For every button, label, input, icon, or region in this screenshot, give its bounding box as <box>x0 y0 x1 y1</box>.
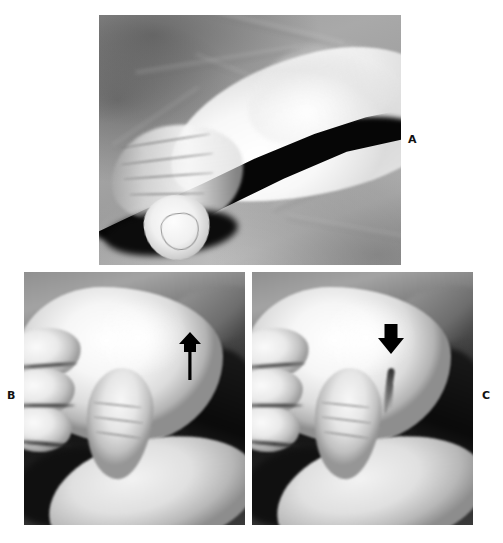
panel-label-b: B <box>7 390 15 401</box>
arrow-down-icon <box>378 324 404 354</box>
panel-c-scene <box>252 272 473 525</box>
arrow-up-icon <box>179 332 201 382</box>
panel-c-image <box>252 272 473 525</box>
panel-b-image <box>24 272 245 525</box>
panel-b-scene <box>24 272 245 525</box>
panel-label-c: C <box>482 390 490 401</box>
panel-a-image <box>99 15 401 265</box>
panel-label-a: A <box>408 134 417 145</box>
panel-a-scene <box>99 15 401 265</box>
clinical-figure: A B <box>0 0 503 543</box>
